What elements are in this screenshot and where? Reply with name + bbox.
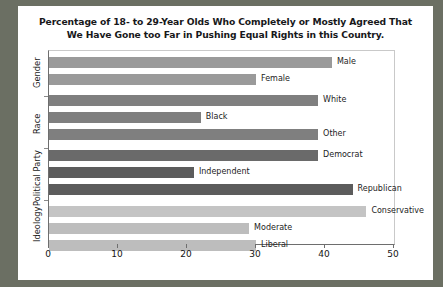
bar-label-black: Black xyxy=(206,111,228,123)
bar-row: Independent xyxy=(49,167,194,178)
x-axis-tick-label: 40 xyxy=(318,249,329,259)
bar-row: Liberal xyxy=(49,240,256,251)
bar-label-republican: Republican xyxy=(358,183,402,195)
bar-row: Other xyxy=(49,129,318,140)
bar-label-female: Female xyxy=(261,73,290,85)
chart-title-line-1: Percentage of 18- to 29-Year Olds Who Co… xyxy=(28,16,423,29)
bar-label-other: Other xyxy=(323,128,346,140)
bar-row: Female xyxy=(49,74,256,85)
bar-row: Democrat xyxy=(49,150,318,161)
group-label-political-party: Political Party xyxy=(32,150,42,206)
x-axis-tick-label: 10 xyxy=(111,249,122,259)
group-label-ideology: Ideology xyxy=(32,207,42,242)
bar-democrat xyxy=(49,150,318,161)
bar-liberal xyxy=(49,240,256,251)
x-axis-tick xyxy=(324,244,325,248)
bar-label-male: Male xyxy=(337,56,356,68)
bar-independent xyxy=(49,167,194,178)
bar-label-independent: Independent xyxy=(199,166,250,178)
bar-label-conservative: Conservative xyxy=(371,205,424,217)
plot-area: MaleFemaleWhiteBlackOtherDemocratIndepen… xyxy=(48,50,395,245)
bar-black xyxy=(49,112,201,123)
x-axis-tick-label: 30 xyxy=(249,249,260,259)
x-axis-tick xyxy=(117,244,118,248)
chart-title-line-2: We Have Gone too Far in Pushing Equal Ri… xyxy=(28,29,423,42)
chart-figure: Percentage of 18- to 29-Year Olds Who Co… xyxy=(18,6,433,280)
group-label-gender: Gender xyxy=(32,57,42,88)
bar-female xyxy=(49,74,256,85)
bar-other xyxy=(49,129,318,140)
chart-title: Percentage of 18- to 29-Year Olds Who Co… xyxy=(28,16,423,41)
x-axis-tick xyxy=(393,244,394,248)
x-axis-tick xyxy=(255,244,256,248)
x-axis-tick-label: 50 xyxy=(387,249,398,259)
x-axis-tick xyxy=(186,244,187,248)
bar-row: White xyxy=(49,95,318,106)
bar-label-moderate: Moderate xyxy=(254,222,292,234)
bar-label-liberal: Liberal xyxy=(261,239,288,251)
x-axis-tick xyxy=(48,244,49,248)
bar-label-white: White xyxy=(323,94,346,106)
bar-moderate xyxy=(49,223,249,234)
group-label-race: Race xyxy=(32,114,42,134)
x-axis-tick-label: 20 xyxy=(180,249,191,259)
bar-row: Moderate xyxy=(49,223,249,234)
bar-row: Male xyxy=(49,57,332,68)
bar-row: Republican xyxy=(49,184,353,195)
bar-white xyxy=(49,95,318,106)
bar-male xyxy=(49,57,332,68)
bar-row: Conservative xyxy=(49,206,366,217)
bar-conservative xyxy=(49,206,366,217)
bar-label-democrat: Democrat xyxy=(323,149,363,161)
bar-row: Black xyxy=(49,112,201,123)
x-axis-tick-label: 0 xyxy=(45,249,51,259)
bar-republican xyxy=(49,184,353,195)
